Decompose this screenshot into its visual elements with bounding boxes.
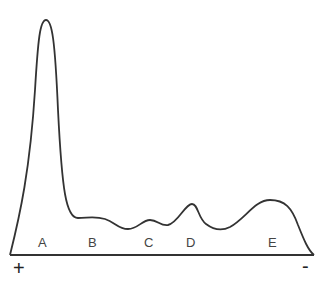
fraction-label-d: D: [186, 235, 195, 250]
fraction-label-e: E: [268, 235, 277, 250]
electrophoresis-chart: A B C D E + -: [0, 0, 331, 290]
anode-plus-sign: +: [13, 257, 25, 279]
density-curve: [10, 20, 314, 255]
fraction-label-b: B: [88, 235, 97, 250]
cathode-minus-sign: -: [302, 255, 309, 277]
fraction-label-a: A: [38, 235, 47, 250]
fraction-label-c: C: [144, 235, 153, 250]
